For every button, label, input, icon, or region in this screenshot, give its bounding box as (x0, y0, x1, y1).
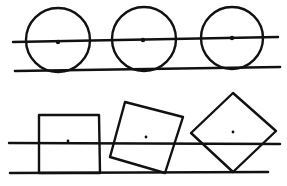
center-line (13, 37, 278, 42)
center-dot (141, 38, 145, 42)
center-dot (145, 136, 148, 139)
center-dot (230, 36, 234, 40)
center-line (9, 143, 280, 144)
center-dot (232, 131, 235, 134)
center-dot (56, 40, 60, 44)
center-dot (67, 140, 70, 143)
rolling-shapes-diagram (0, 0, 287, 186)
diagram-svg (0, 0, 287, 186)
squares-panel (9, 93, 280, 173)
circles-panel (13, 7, 280, 72)
